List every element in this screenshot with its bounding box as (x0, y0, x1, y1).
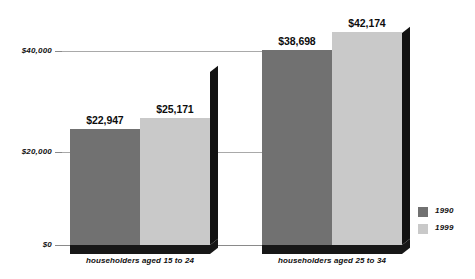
y-tick-40000 (55, 51, 62, 52)
legend-label-1990: 1990 (435, 206, 454, 215)
y-axis-label-40000: $40,000 (0, 46, 52, 55)
y-tick-0 (55, 245, 62, 246)
bar-chart: $40,000 $20,000 $0 (0, 0, 475, 279)
legend-item-1990[interactable]: 1990 (418, 204, 474, 221)
value-label-1990-aged-15-to-24: $22,947 (70, 114, 140, 126)
legend-swatch-1990-icon (418, 207, 428, 217)
y-axis-label-20000: $20,000 (0, 147, 52, 156)
value-label-1990-aged-25-to-34: $38,698 (262, 35, 332, 47)
bar-1990-aged-25-to-34[interactable] (262, 50, 332, 245)
value-label-1999-aged-15-to-24: $25,171 (140, 103, 210, 115)
y-axis-label-0: $0 (0, 240, 52, 249)
legend: 1990 1999 (418, 204, 474, 238)
legend-swatch-1999-icon (418, 224, 428, 234)
category-label-aged-15-to-24: householders aged 15 to 24 (55, 256, 225, 265)
bar-face (262, 50, 332, 245)
plot-area (62, 10, 410, 246)
bar-face (332, 32, 402, 245)
y-tick-20000 (55, 152, 62, 153)
cluster2-base-shadow (262, 245, 402, 254)
cluster1-base-shadow (70, 245, 210, 254)
bar-1990-aged-15-to-24[interactable] (70, 129, 140, 245)
cluster2-side-shadow (402, 27, 410, 245)
cluster1-side-shadow (210, 66, 218, 245)
bar-1999-aged-15-to-24[interactable] (140, 118, 210, 245)
bar-face (70, 129, 140, 245)
bar-face (140, 118, 210, 245)
bar-1999-aged-25-to-34[interactable] (332, 32, 402, 245)
legend-label-1999: 1999 (435, 223, 454, 232)
legend-item-1999[interactable]: 1999 (418, 221, 474, 238)
value-label-1999-aged-25-to-34: $42,174 (332, 17, 402, 29)
category-label-aged-25-to-34: householders aged 25 to 34 (247, 256, 417, 265)
